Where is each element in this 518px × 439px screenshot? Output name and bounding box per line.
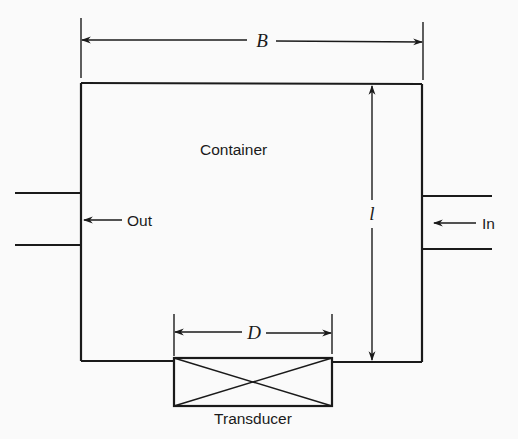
container-label: Container: [200, 141, 267, 158]
inlet-pipe: In: [422, 196, 495, 249]
inlet-label: In: [482, 215, 495, 232]
outlet-pipe: Out: [15, 193, 153, 245]
dimension-l-label: l: [369, 203, 374, 224]
container-top-wall: [81, 83, 422, 84]
dimension-b-arrow-right: [276, 41, 422, 42]
dimension-b: B: [81, 18, 423, 80]
outlet-label: Out: [127, 212, 153, 229]
transducer-label: Transducer: [214, 410, 292, 427]
container-transducer-diagram: B Container l Out In D: [0, 0, 518, 439]
transducer: Transducer: [174, 358, 332, 427]
dimension-d-label: D: [246, 322, 261, 343]
dimension-l: l: [369, 86, 374, 360]
dimension-d: D: [174, 314, 332, 356]
dimension-b-label: B: [256, 30, 268, 51]
